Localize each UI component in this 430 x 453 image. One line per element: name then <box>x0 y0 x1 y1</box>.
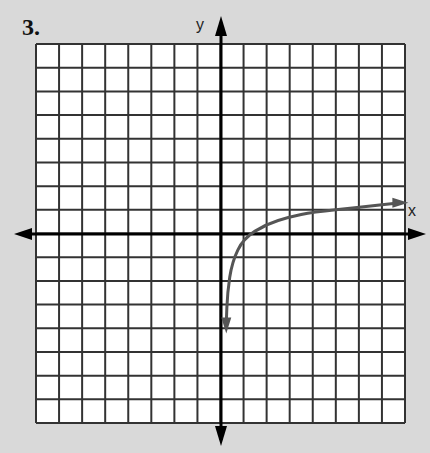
coordinate-plane <box>0 0 430 453</box>
x-axis-right-arrow-icon <box>408 228 426 240</box>
x-axis-left-arrow-icon <box>14 228 32 240</box>
y-axis-down-arrow-icon <box>215 426 227 446</box>
y-axis-up-arrow-icon <box>215 16 227 36</box>
